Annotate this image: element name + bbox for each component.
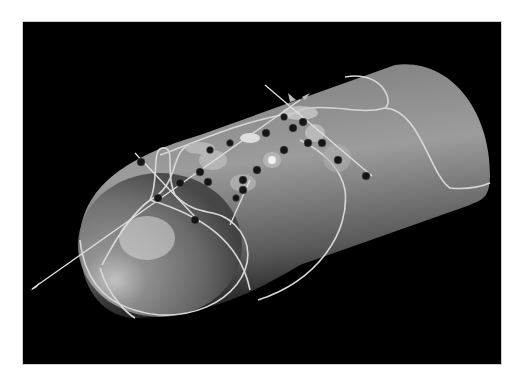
arrow-tip-icon: [30, 282, 40, 291]
arrow-tip-icon: [288, 93, 296, 102]
capsule-render: [0, 0, 529, 386]
